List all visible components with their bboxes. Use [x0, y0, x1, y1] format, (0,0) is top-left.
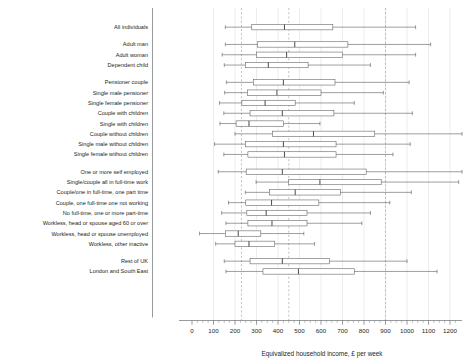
x-tick-label: 800: [359, 327, 370, 334]
category-label: Workless, other inactive: [89, 241, 148, 247]
boxplot-row: [226, 80, 409, 85]
x-tick-label: 1100: [422, 327, 436, 334]
box-iqr: [248, 221, 307, 226]
x-axis-title: Equivalized household income, £ per week: [261, 350, 383, 358]
chart-canvas: All individualsAdult manAdult womanDepen…: [0, 0, 464, 364]
category-label: Single with children: [100, 121, 148, 127]
xtick-labels-layer: 0100200300400500600700800900100011001200: [190, 327, 457, 334]
boxplot-row: [220, 100, 355, 105]
category-label: Couple, one full-time one not working: [56, 200, 148, 206]
category-label: Adult woman: [116, 52, 148, 58]
category-labels-layer: All individualsAdult manAdult womanDepen…: [43, 24, 149, 274]
category-label: Single male pensioner: [93, 90, 148, 96]
category-label: Single female without children: [74, 151, 148, 157]
box-iqr: [250, 258, 330, 263]
x-tick-label: 1000: [400, 327, 414, 334]
box-iqr: [247, 90, 321, 95]
category-label: London and South East: [90, 268, 149, 274]
x-tick-label: 300: [251, 327, 262, 334]
category-label: One or more self employed: [81, 169, 148, 175]
category-label: Workless, head or spouse aged 60 or over: [43, 220, 148, 226]
boxplot-row: [229, 200, 390, 205]
x-tick-label: 500: [294, 327, 305, 334]
x-tick-label: 400: [273, 327, 284, 334]
boxplot-row: [225, 90, 384, 95]
box-iqr: [257, 52, 343, 57]
box-iqr: [225, 231, 260, 236]
box-iqr: [245, 62, 308, 67]
boxplot-row: [218, 169, 462, 174]
boxplot-row: [222, 210, 371, 215]
category-label: Single male without children: [78, 141, 148, 147]
box-iqr: [273, 131, 375, 136]
box-iqr: [263, 269, 354, 274]
category-label: Couple with children: [98, 110, 148, 116]
box-iqr: [235, 241, 275, 246]
boxplot-row: [224, 258, 407, 263]
x-tick-label: 700: [337, 327, 348, 334]
box-iqr: [250, 111, 334, 116]
category-label: Couple/one in full-time, one part time: [57, 189, 148, 195]
category-label: Single female pensioner: [88, 100, 148, 106]
boxplot-row: [222, 52, 416, 57]
boxplot-row: [224, 152, 393, 157]
boxplot-row: [224, 111, 413, 116]
category-label: Workless, head or spouse unemployed: [51, 231, 148, 237]
box-iqr: [247, 210, 307, 215]
boxplot-row: [235, 131, 462, 136]
box-iqr: [246, 200, 319, 205]
box-iqr: [269, 190, 340, 195]
x-tick-label: 600: [316, 327, 327, 334]
boxplot-chart: All individualsAdult manAdult womanDepen…: [0, 0, 464, 364]
box-iqr: [246, 169, 366, 174]
boxplot-row: [224, 62, 370, 67]
boxplot-row: [200, 231, 304, 236]
box-iqr: [289, 179, 381, 184]
category-label: No full-time, one or more part-time: [63, 210, 148, 216]
box-iqr: [242, 100, 295, 105]
boxplot-row: [225, 24, 415, 29]
x-tick-label: 0: [190, 327, 194, 334]
boxplots-layer: [200, 24, 462, 274]
boxplot-row: [226, 269, 437, 274]
boxplot-row: [256, 179, 459, 184]
x-tick-label: 100: [208, 327, 219, 334]
category-label: Rest of UK: [121, 258, 148, 264]
x-tick-label: 1200: [443, 327, 457, 334]
category-label: Pensioner couple: [105, 79, 148, 85]
box-iqr: [248, 152, 336, 157]
box-iqr: [236, 121, 283, 126]
category-label: All individuals: [114, 24, 148, 30]
boxplot-row: [215, 141, 411, 146]
boxplot-row: [225, 42, 430, 47]
category-label: Adult man: [123, 41, 148, 47]
x-tick-label: 900: [380, 327, 391, 334]
box-iqr: [253, 80, 335, 85]
x-tick-label: 200: [230, 327, 241, 334]
boxplot-row: [245, 190, 411, 195]
box-iqr: [245, 141, 336, 146]
category-label: Dependent child: [108, 62, 148, 68]
box-iqr: [252, 24, 333, 29]
box-iqr: [258, 42, 348, 47]
boxplot-row: [226, 221, 362, 226]
category-label: Couple without children: [90, 131, 148, 137]
category-label: Single/couple all in full-time work: [67, 179, 148, 185]
